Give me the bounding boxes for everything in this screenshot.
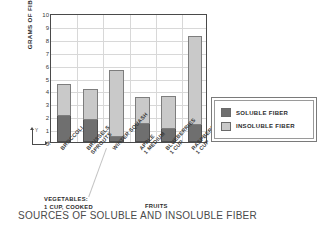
y-tick-label: 2 <box>46 115 49 121</box>
y-tick-label: 6 <box>46 64 49 70</box>
chart-figure: GRAMS OF FIBER 012345678910 BROCCOLIBRUS… <box>0 0 326 228</box>
y-axis-title: GRAMS OF FIBER <box>26 0 33 60</box>
legend: SOLUBLE FIBERINSOLUBLE FIBER <box>211 97 317 142</box>
bar-segment-insoluble <box>161 96 176 130</box>
y-tick-label: 9 <box>46 25 49 31</box>
y-tick-label: 8 <box>46 38 49 44</box>
y-tick-label: 5 <box>46 77 49 83</box>
bar-segment-insoluble <box>188 36 203 125</box>
axis-icon-vertical-line <box>32 129 33 144</box>
legend-item[interactable]: INSOLUBLE FIBER <box>221 122 307 131</box>
group-divider <box>88 148 107 197</box>
bar-segment-insoluble <box>83 89 98 120</box>
axis-icon-x-label: X <box>48 141 51 146</box>
bar-apple-1-medium <box>135 97 150 142</box>
bar-segment-insoluble <box>57 84 72 116</box>
legend-swatch <box>221 122 231 131</box>
bar-brussels-sprouts <box>83 89 98 142</box>
legend-swatch <box>221 108 231 117</box>
legend-label: SOLUBLE FIBER <box>236 110 288 116</box>
axis-icon-horizontal-line <box>32 144 46 145</box>
bar-winter-squash <box>109 70 124 142</box>
y-tick-label: 10 <box>42 12 49 18</box>
bar-segment-soluble <box>188 125 203 142</box>
legend-inner: SOLUBLE FIBERINSOLUBLE FIBER <box>214 100 314 139</box>
y-tick-label: 3 <box>46 102 49 108</box>
group-label-vegetables-line1: VEGETABLES: <box>44 196 93 204</box>
bar-blueberries-1-cup <box>161 96 176 142</box>
bar-segment-soluble <box>57 116 72 142</box>
bar-segment-soluble <box>135 124 150 142</box>
group-label-vegetables: VEGETABLES: 1 CUP, COOKED <box>44 196 93 211</box>
bar-broccoli <box>57 84 72 142</box>
bar-raspberries-1-cup <box>188 36 203 142</box>
bar-segment-insoluble <box>109 70 124 137</box>
axis-icon-y-label: Y <box>35 128 38 133</box>
axis-orientation-icon: Y X <box>28 127 52 149</box>
legend-label: INSOLUBLE FIBER <box>236 123 295 129</box>
y-tick-label: 7 <box>46 51 49 57</box>
y-tick-label: 4 <box>46 89 49 95</box>
legend-item[interactable]: SOLUBLE FIBER <box>221 108 307 117</box>
plot-area: 012345678910 <box>50 14 207 143</box>
bar-segment-insoluble <box>135 97 150 124</box>
bar-segment-soluble <box>83 120 98 142</box>
chart-title: SOURCES OF SOLUBLE AND INSOLUBLE FIBER <box>18 210 257 221</box>
arrow-up-icon <box>30 127 34 130</box>
bars-layer <box>51 15 206 142</box>
bar-segment-soluble <box>161 129 176 142</box>
bar-segment-soluble <box>109 137 124 142</box>
